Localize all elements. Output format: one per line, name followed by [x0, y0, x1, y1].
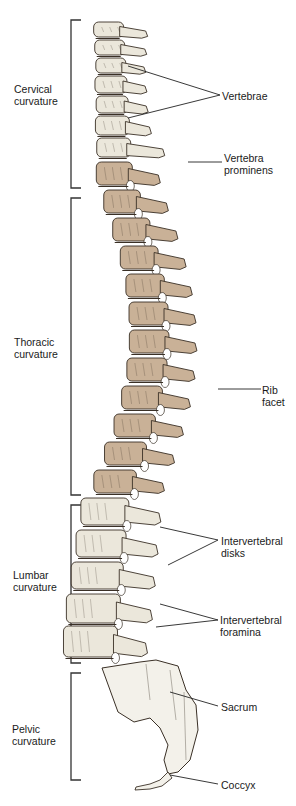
vertebra-body [96, 96, 128, 113]
vertebra-process [125, 506, 161, 526]
vertebra-body [126, 274, 164, 297]
vertebra-process [119, 570, 155, 590]
label-line: Lumbar [13, 569, 57, 581]
label-line: Vertebrae [222, 90, 268, 102]
vertebra-body [94, 22, 124, 37]
vertebra-body [127, 358, 167, 381]
vertebra-body [120, 246, 158, 269]
label-line: disks [221, 547, 283, 559]
label-pelvic-curvature: Pelvic curvature [12, 723, 56, 747]
vertebra-process [123, 81, 147, 94]
vertebra-process [121, 45, 147, 57]
vertebra-body [114, 414, 155, 437]
vertebra-body [94, 470, 137, 493]
leader-intervertebral-foramina [156, 604, 218, 627]
label-line: curvature [14, 95, 58, 107]
vertebra-body [96, 58, 126, 73]
label-line: Intervertebral [220, 614, 282, 626]
vertebra-process [113, 635, 147, 657]
vertebra-process [125, 122, 151, 136]
vertebra-process [120, 27, 148, 39]
vertebra-body [96, 162, 132, 185]
vertebra-body [66, 594, 120, 623]
label-line: Rib [262, 384, 285, 396]
vertebra-body [81, 498, 129, 525]
vertebra-process [122, 63, 146, 75]
coccyx [135, 772, 172, 790]
leader-intervertebral-disks [160, 527, 218, 565]
sacrum [102, 660, 198, 774]
vertebra-body [129, 330, 169, 353]
vertebra-body [105, 442, 147, 465]
label-thoracic-curvature: Thoracic curvature [14, 336, 58, 360]
bracket-cervical [71, 20, 81, 188]
vertebral-column-illustration [0, 0, 296, 806]
label-sacrum: Sacrum [221, 701, 257, 713]
label-coccyx: Coccyx [221, 779, 255, 791]
vertebra-process [127, 144, 165, 158]
vertebra-body [71, 562, 123, 589]
label-line: Thoracic [14, 336, 58, 348]
vertebra-body [104, 190, 141, 213]
label-line: Vertebra [224, 152, 273, 164]
label-line: curvature [14, 348, 58, 360]
label-line: foramina [220, 626, 282, 638]
leader-coccyx [170, 775, 218, 784]
label-line: curvature [12, 735, 56, 747]
vertebra-process [122, 538, 158, 558]
vertebra-body [113, 218, 150, 241]
vertebra-body [122, 386, 163, 409]
vertebra-body [95, 40, 125, 55]
vertebra-body [95, 76, 127, 93]
label-line: Pelvic [12, 723, 56, 735]
label-rib-facet: Rib facet [262, 384, 285, 408]
label-vertebra-prominens: Vertebra prominens [224, 152, 273, 176]
label-line: facet [262, 396, 285, 408]
bracket-thoracic [71, 198, 81, 495]
bracket-pelvic [71, 673, 81, 780]
label-line: Cervical [14, 83, 58, 95]
label-line: Sacrum [221, 701, 257, 713]
label-line: prominens [224, 164, 273, 176]
vertebra-body [63, 626, 117, 657]
label-intervertebral-foramina: Intervertebral foramina [220, 614, 282, 638]
label-line: Intervertebral [221, 535, 283, 547]
label-intervertebral-disks: Intervertebral disks [221, 535, 283, 559]
label-lumbar-curvature: Lumbar curvature [13, 569, 57, 593]
label-cervical-curvature: Cervical curvature [14, 83, 58, 107]
vertebra-process [124, 101, 148, 114]
vertebra-process [116, 602, 152, 623]
vertebra-body [129, 302, 168, 325]
spine-diagram: Cervical curvature Thoracic curvature Lu… [0, 0, 296, 806]
label-line: Coccyx [221, 779, 255, 791]
label-vertebrae: Vertebrae [222, 90, 268, 102]
label-line: curvature [13, 581, 57, 593]
